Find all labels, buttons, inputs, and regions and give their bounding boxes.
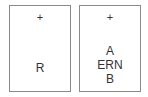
panel-label-b: B — [80, 72, 140, 86]
panel-label-ern: ERN — [80, 58, 140, 72]
panel-label-a: A — [80, 44, 140, 58]
left-panel: + R — [9, 5, 71, 92]
right-panel: + A ERN B — [79, 5, 141, 92]
plus-marker: + — [10, 12, 70, 23]
panel-label-r: R — [10, 61, 70, 75]
label-stack: A ERN B — [80, 44, 140, 86]
plus-marker: + — [80, 12, 140, 23]
